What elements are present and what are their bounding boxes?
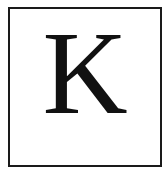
letter-card: K [8, 7, 162, 167]
letter-glyph: K [10, 15, 160, 133]
